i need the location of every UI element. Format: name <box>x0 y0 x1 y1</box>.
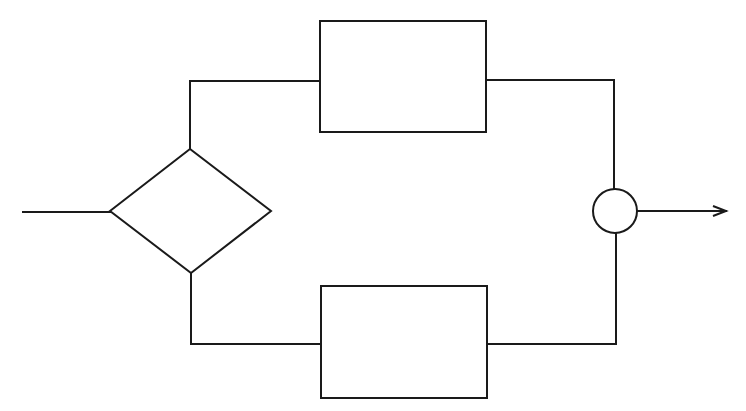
bottom-to-junction-line <box>487 233 616 344</box>
process-bottom-box <box>321 286 487 398</box>
top-to-junction-line <box>486 80 614 189</box>
decision-diamond <box>110 149 271 273</box>
junction-circle <box>593 189 637 233</box>
decision-to-top-line <box>190 81 320 149</box>
process-top-box <box>320 21 486 132</box>
decision-to-bottom-line <box>191 273 321 344</box>
flowchart-canvas <box>0 0 746 411</box>
flowchart-nodes <box>110 21 637 398</box>
